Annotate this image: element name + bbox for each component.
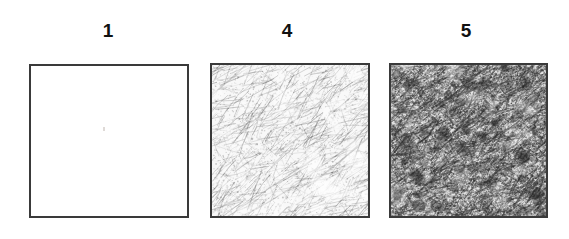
panel-label-4: 4 [267,21,307,40]
panel-texture-4 [212,65,368,216]
panel-box-1 [29,64,189,218]
panel-texture-5 [391,65,546,216]
panel-box-4 [210,63,370,218]
panel-texture-1 [31,66,187,216]
panel-label-1: 1 [88,21,128,40]
panel-box-5 [389,63,548,218]
figure-canvas: 145 [0,0,569,239]
panel-speck [103,127,105,131]
panel-label-5: 5 [446,21,486,40]
